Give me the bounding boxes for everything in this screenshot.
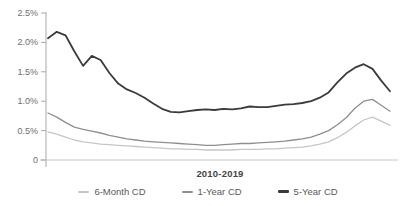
legend-item-6-month-cd: 6-Month CD — [78, 186, 145, 197]
y-tick-label: 2.0% — [17, 37, 38, 47]
y-tick-label: 2.5% — [17, 8, 38, 18]
legend-label-5-year-cd: 5-Year CD — [294, 186, 338, 197]
y-tick-label: 1.0% — [17, 96, 38, 106]
cd-rates-chart: 2.5%2.0%1.5%1.0%0.5%0 2010-2019 6-Month … — [0, 0, 404, 206]
series-line-5-year-cd — [48, 32, 390, 113]
x-axis-label: 2010-2019 — [46, 168, 394, 179]
y-tick-label: 0.5% — [17, 126, 38, 136]
y-tick-label: 0 — [33, 155, 38, 165]
series-line-1-year-cd — [48, 99, 390, 145]
legend-label-6-month-cd: 6-Month CD — [94, 186, 145, 197]
legend-item-5-year-cd: 5-Year CD — [278, 186, 338, 197]
chart-legend: 6-Month CD 1-Year CD 5-Year CD — [12, 186, 404, 197]
line-chart-plot-area: 2.5%2.0%1.5%1.0%0.5%0 — [0, 0, 404, 168]
1-year-cd-line-swatch — [182, 191, 193, 193]
legend-item-1-year-cd: 1-Year CD — [182, 186, 242, 197]
y-tick-label: 1.5% — [17, 67, 38, 77]
legend-label-1-year-cd: 1-Year CD — [198, 186, 242, 197]
6-month-cd-line-swatch — [78, 191, 89, 193]
5-year-cd-line-swatch — [278, 190, 289, 193]
